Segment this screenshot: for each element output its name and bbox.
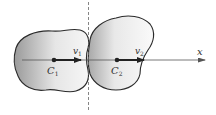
x-axis-label: x [197, 46, 203, 57]
center-2-dot [115, 58, 120, 63]
collision-diagram: x v1 v2 C1 C2 [0, 0, 216, 115]
center-1-dot [52, 58, 57, 63]
